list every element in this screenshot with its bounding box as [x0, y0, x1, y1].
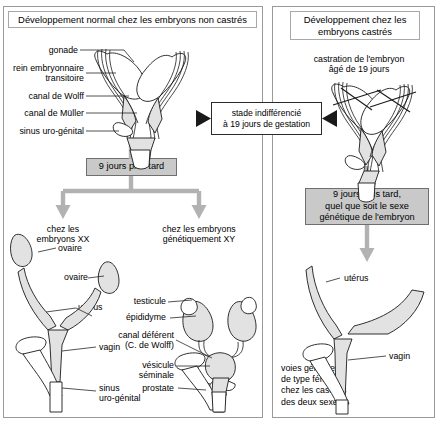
diagram-root: Développement normal chez les embryons n…: [0, 0, 438, 424]
castrated-embryo: [332, 82, 416, 202]
female-tract-xx: [11, 234, 120, 412]
anatomy-artwork-layer: [0, 0, 438, 424]
indifferent-embryo-normal: [95, 49, 189, 169]
castrated-female-type-tract: [303, 266, 424, 414]
male-tract-xy: [175, 297, 256, 412]
center-stage-box: stade indifférencié à 19 jours de gestat…: [211, 102, 322, 135]
